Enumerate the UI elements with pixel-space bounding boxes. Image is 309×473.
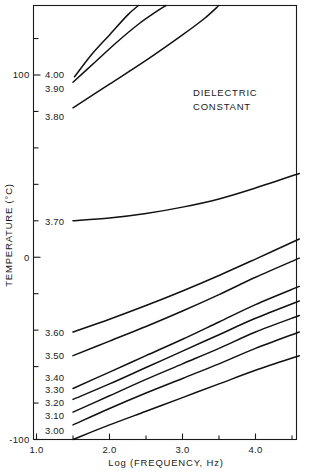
contour-curve-3-40 [73,286,299,388]
annotation-line-2: CONSTANT [193,101,251,112]
contour-label-3-10: 3.10 [45,410,64,421]
contour-label-3-30: 3.30 [45,384,64,395]
contour-label-3-90: 3.90 [45,83,64,94]
x-tick-label: 1.0 [29,444,43,455]
contour-label-3-60: 3.60 [45,327,64,338]
y-axis-ticks [34,39,41,440]
y-axis-title: TEMPERATURE (°C) [3,183,14,287]
contour-curve-3-20 [73,316,299,413]
plot-frame [34,6,297,440]
contour-label-4-00: 4.00 [45,69,64,80]
dielectric-constant-chart: 1000-100 1.02.03.04.0 4.003.903.803.703.… [0,0,309,473]
contour-label-3-70: 3.70 [45,216,64,227]
contour-curve-3-70 [73,173,299,220]
chart-canvas: 1000-100 1.02.03.04.0 4.003.903.803.703.… [0,0,309,473]
contour-curve-3-10 [73,332,299,425]
contour-label-3-00: 3.00 [45,425,64,436]
annotation-line-1: DIELECTRIC [193,87,257,98]
contour-label-3-40: 3.40 [45,372,64,383]
contour-label-3-20: 3.20 [45,397,64,408]
x-tick-label: 4.0 [248,444,262,455]
contour-curve-4-00 [74,6,138,77]
contour-curve-3-30 [73,301,299,399]
contour-curve-3-50 [73,258,299,356]
y-tick-label: 0 [24,252,30,263]
y-tick-label: -100 [9,434,29,445]
x-axis-tick-labels: 1.02.03.04.0 [29,444,262,455]
contour-label-3-80: 3.80 [45,111,64,122]
contour-curves [73,6,299,440]
y-tick-label: 100 [13,69,30,80]
contour-curve-3-60 [73,239,299,332]
x-axis-title: Log (FREQUENCY, Hz) [108,457,223,468]
contour-value-labels: 4.003.903.803.703.603.503.403.303.203.10… [45,69,64,436]
x-tick-label: 3.0 [175,444,189,455]
contour-label-3-50: 3.50 [45,350,64,361]
contour-curve-3-90 [73,6,166,83]
x-tick-label: 2.0 [102,444,116,455]
